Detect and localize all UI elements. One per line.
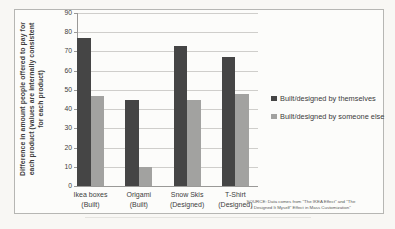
y-tick-label: 20 bbox=[52, 144, 72, 152]
category-label-line1: Origami bbox=[113, 190, 165, 200]
y-tick-label: 40 bbox=[52, 105, 72, 113]
category-label: T-Shirt(Designed) bbox=[209, 190, 261, 209]
bar bbox=[187, 100, 201, 187]
category-label-line2: (Designed) bbox=[161, 200, 213, 210]
y-tick-label: 70 bbox=[52, 47, 72, 55]
y-tick-label: 30 bbox=[52, 124, 72, 132]
category-label-line1: Ikea boxes bbox=[65, 190, 117, 200]
y-tick-label: 0 bbox=[52, 182, 72, 190]
legend-item: Built/designed by themselves bbox=[271, 94, 384, 103]
category-label-line2: (Designed) bbox=[209, 200, 261, 210]
legend-label: Built/designed by themselves bbox=[280, 94, 376, 103]
y-tick-label: 50 bbox=[52, 86, 72, 94]
y-tick-mark bbox=[74, 186, 77, 187]
bar bbox=[125, 100, 139, 187]
gridline bbox=[77, 51, 258, 52]
category-label: Ikea boxes(Built) bbox=[65, 190, 117, 209]
legend-item: Built/designed by someone else bbox=[271, 112, 384, 121]
y-tick-label: 90 bbox=[52, 9, 72, 17]
x-axis-line bbox=[77, 186, 258, 187]
y-axis-title: Difference in amount people offered to p… bbox=[18, 7, 48, 191]
y-tick-label: 10 bbox=[52, 163, 72, 171]
legend-label: Built/designed by someone else bbox=[280, 112, 384, 121]
gridline bbox=[77, 32, 258, 33]
category-label-line1: Snow Skis bbox=[161, 190, 213, 200]
category-label-line1: T-Shirt bbox=[209, 190, 261, 200]
y-axis-title-line: for each product) bbox=[36, 7, 45, 191]
bar bbox=[222, 57, 236, 186]
category-label: Origami(Built) bbox=[113, 190, 165, 209]
legend-swatch-icon bbox=[271, 96, 277, 102]
legend: Built/designed by themselvesBuilt/design… bbox=[271, 94, 384, 130]
caption-ghost-line bbox=[85, 217, 311, 218]
category-label-line2: (Built) bbox=[65, 200, 117, 210]
bar bbox=[91, 96, 105, 186]
bar bbox=[174, 46, 188, 186]
gridline bbox=[77, 13, 258, 14]
y-axis-title-line: each product (values are internally cons… bbox=[27, 7, 36, 191]
legend-swatch-icon bbox=[271, 114, 277, 120]
y-tick-label: 60 bbox=[52, 67, 72, 75]
y-tick-label: 80 bbox=[52, 28, 72, 36]
bar bbox=[77, 38, 91, 186]
category-label: Snow Skis(Designed) bbox=[161, 190, 213, 209]
category-label-line2: (Built) bbox=[113, 200, 165, 210]
bar bbox=[235, 94, 249, 186]
y-axis-title-line: Difference in amount people offered to p… bbox=[18, 7, 27, 191]
bar bbox=[139, 167, 153, 186]
scanned-chart-page: Difference in amount people offered to p… bbox=[0, 0, 395, 229]
